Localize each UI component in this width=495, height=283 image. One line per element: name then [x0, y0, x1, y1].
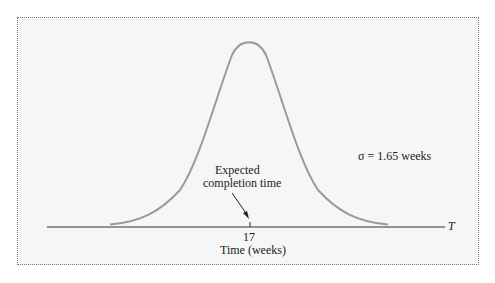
x-axis-label: Time (weeks)	[220, 244, 286, 257]
bell-curve	[110, 42, 388, 224]
axis-name-t: T	[448, 220, 455, 233]
arrow-head-icon	[243, 211, 249, 219]
expected-label-line2: completion time	[203, 177, 281, 190]
sigma-label: σ = 1.65 weeks	[358, 150, 431, 163]
